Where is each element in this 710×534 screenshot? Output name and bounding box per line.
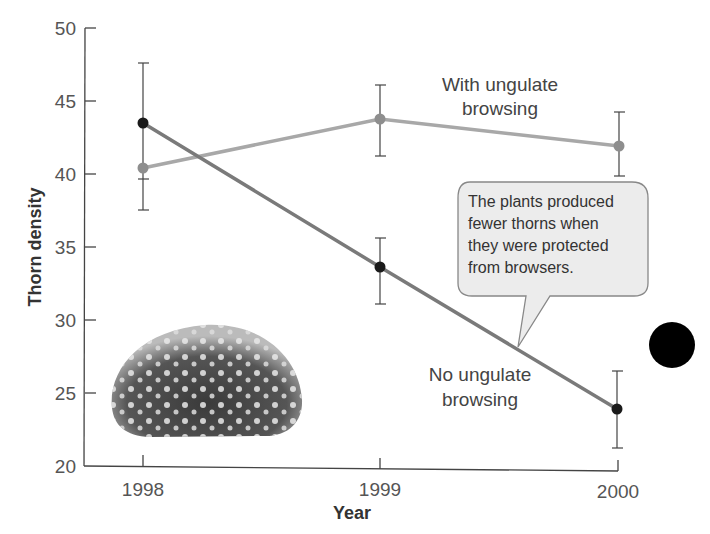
callout-line-2: fewer thorns when bbox=[468, 215, 599, 232]
y-axis-title: Thorn density bbox=[25, 187, 45, 306]
label-no-line-1: No ungulate bbox=[429, 364, 531, 385]
x-tick-2000: 2000 bbox=[597, 481, 639, 502]
y-axis: 50 45 40 35 30 25 20 Thorn density bbox=[25, 18, 96, 477]
data-point bbox=[612, 404, 623, 415]
data-point bbox=[375, 262, 386, 273]
callout-line-4: from browsers. bbox=[468, 259, 574, 276]
line-chart: 50 45 40 35 30 25 20 Thorn density 1998 … bbox=[0, 0, 710, 534]
label-with-line-1: With ungulate bbox=[442, 74, 558, 95]
y-tick-30: 30 bbox=[55, 310, 76, 331]
shrub-illustration bbox=[112, 325, 302, 437]
x-tick-1999: 1999 bbox=[359, 479, 401, 500]
label-with-line-2: browsing bbox=[462, 98, 538, 119]
x-axis: 1998 1999 2000 Year bbox=[84, 455, 639, 523]
callout-line-1: The plants produced bbox=[468, 193, 614, 210]
black-dot-marker bbox=[649, 322, 695, 368]
data-point bbox=[138, 118, 149, 129]
callout-bubble: The plants produced fewer thorns when th… bbox=[458, 182, 648, 347]
x-axis-title: Year bbox=[333, 503, 371, 523]
y-tick-20: 20 bbox=[55, 456, 76, 477]
data-point bbox=[138, 163, 149, 174]
y-tick-45: 45 bbox=[55, 91, 76, 112]
callout-line-3: they were protected bbox=[468, 237, 609, 254]
data-point bbox=[375, 114, 386, 125]
y-tick-50: 50 bbox=[55, 18, 76, 39]
y-tick-40: 40 bbox=[55, 164, 76, 185]
label-no-line-2: browsing bbox=[442, 389, 518, 410]
y-tick-25: 25 bbox=[55, 383, 76, 404]
y-tick-35: 35 bbox=[55, 237, 76, 258]
data-point bbox=[614, 141, 625, 152]
x-tick-1998: 1998 bbox=[122, 479, 164, 500]
